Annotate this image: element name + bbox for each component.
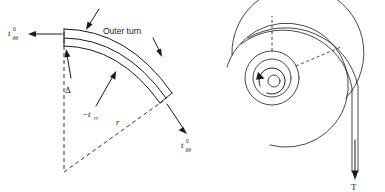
spiral-arc-outer-2 (232, 0, 364, 98)
hoop-stress-right-symbol: t (181, 140, 184, 150)
radial-stress-subscript: rr (94, 115, 99, 121)
delta-leader-shaft (67, 55, 71, 78)
spiral-radius-diagonal (296, 47, 341, 66)
spiral-strip-inner-edge (248, 28, 358, 172)
rotation-arrow-arc (259, 68, 285, 94)
band-right-end-face (160, 93, 172, 103)
hoop-stress-left-subscript: θθ (13, 35, 19, 41)
left-panel-outer-turn: t 0 θθ Outer turn Δ −t rr r t 0 (0, 0, 200, 192)
spiral-arc-outer-1 (227, 23, 348, 147)
hoop-stress-label-left: t 0 θθ (8, 26, 18, 41)
hoop-stress-right-subscript: θθ (186, 147, 192, 153)
hoop-stress-arrow-right-shaft (167, 104, 183, 128)
rotation-arrow-head (256, 72, 264, 80)
top-leader-shaft (89, 9, 99, 25)
delta-leader-head (65, 49, 71, 57)
radial-stress-symbol: −t (82, 109, 91, 119)
hoop-stress-label-right: t 0 θθ (181, 138, 191, 153)
radial-stress-label: −t rr (82, 109, 99, 121)
hub-core-bore (268, 75, 280, 87)
hoop-stress-arrow-right-head (179, 127, 188, 134)
right-panel-wound-roll: T (200, 0, 385, 192)
top-leader-head (86, 22, 93, 31)
hoop-stress-right-superscript: 0 (186, 138, 189, 144)
hoop-stress-arrow-left-head (28, 31, 36, 37)
tension-label: T (351, 182, 357, 192)
radius-line (64, 101, 163, 172)
radial-stress-leader-shaft (96, 76, 113, 106)
hoop-stress-left-superscript: 0 (13, 26, 16, 32)
hoop-stress-left-symbol: t (8, 28, 11, 38)
delta-label: Δ (65, 85, 71, 95)
figure-root: t 0 θθ Outer turn Δ −t rr r t 0 (0, 0, 385, 192)
tension-arrow-head (352, 171, 359, 181)
radial-stress-leader-head (110, 71, 116, 80)
band-outer-arc (64, 29, 172, 93)
outer-turn-leader-head (156, 48, 162, 57)
radius-label: r (116, 117, 120, 127)
outer-turn-label: Outer turn (103, 26, 142, 36)
